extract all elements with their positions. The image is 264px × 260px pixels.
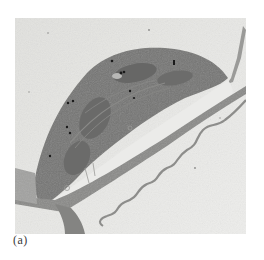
micrograph-image xyxy=(15,18,246,234)
figure-panel: (a) xyxy=(0,0,264,260)
panel-label: (a) xyxy=(13,233,28,248)
